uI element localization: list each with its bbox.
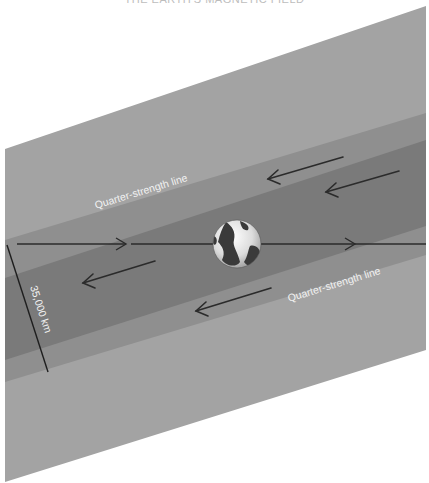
earth-globe-icon [213, 220, 261, 268]
magnetic-field-diagram: Quarter-strength line Quarter-strength l… [0, 0, 429, 483]
